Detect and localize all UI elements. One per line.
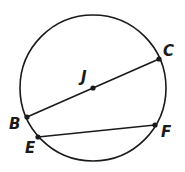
point-b (24, 114, 29, 119)
point-j (90, 85, 95, 90)
point-e (35, 134, 40, 139)
label-e: E (25, 139, 36, 157)
label-f: F (161, 123, 172, 141)
label-c: C (163, 42, 174, 60)
point-c (156, 56, 161, 61)
chord-ef (38, 125, 155, 137)
point-f (152, 122, 157, 127)
label-j: J (78, 68, 87, 86)
label-b: B (9, 115, 20, 133)
circle-diagram: C J B E F (0, 0, 185, 172)
